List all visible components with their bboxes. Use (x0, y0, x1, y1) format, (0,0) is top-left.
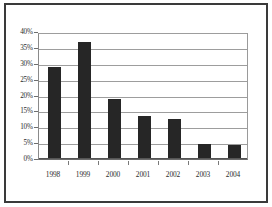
x-axis-tick (188, 161, 189, 165)
y-axis-tick-label: 40% (20, 28, 33, 36)
y-axis-tick-label: 5% (24, 139, 33, 147)
x-axis-tick-label: 2004 (218, 170, 248, 179)
bar-chart: 0%5%10%15%20%25%30%35%40% 19981999200020… (0, 0, 272, 207)
y-axis-tick-label: 35% (20, 44, 33, 52)
chart-figure: 0%5%10%15%20%25%30%35%40% 19981999200020… (0, 0, 272, 207)
bar (48, 67, 61, 159)
y-axis-tick-label: 25% (20, 76, 33, 84)
bar (228, 145, 241, 159)
bar (168, 119, 181, 159)
y-axis-tick-label: 30% (20, 60, 33, 68)
bar (138, 116, 151, 159)
x-axis-tick-label: 2001 (128, 170, 158, 179)
gridline (39, 33, 247, 34)
y-axis-tick-label: 10% (20, 123, 33, 131)
x-axis-line (39, 158, 247, 159)
y-axis-tick-label: 0% (24, 155, 33, 163)
y-axis-labels: 0%5%10%15%20%25%30%35%40% (0, 0, 33, 207)
y-axis-tick-label: 15% (20, 107, 33, 115)
gridline (39, 97, 247, 98)
gridline (39, 65, 247, 66)
x-axis-tick (218, 161, 219, 165)
x-axis-tick-label: 2000 (98, 170, 128, 179)
y-axis-tick-label: 20% (20, 92, 33, 100)
x-axis-tick-label: 2002 (158, 170, 188, 179)
x-axis-tick-label: 1998 (38, 170, 68, 179)
x-axis-tick (128, 161, 129, 165)
x-axis-tick (68, 161, 69, 165)
bar (198, 144, 211, 159)
x-axis-tick-label: 2003 (188, 170, 218, 179)
plot-area (38, 33, 248, 160)
bar (78, 42, 91, 159)
x-axis-tick (98, 161, 99, 165)
gridline (39, 112, 247, 113)
gridline (39, 81, 247, 82)
x-axis-tick-label: 1999 (68, 170, 98, 179)
x-axis-tick (158, 161, 159, 165)
gridline (39, 49, 247, 50)
bar (108, 99, 121, 159)
